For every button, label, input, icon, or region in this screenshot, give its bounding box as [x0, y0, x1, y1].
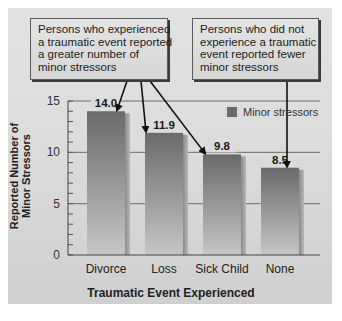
bars-group: 14.011.99.88.5 [87, 97, 304, 255]
legend: Minor stressors [227, 106, 318, 118]
bar-sick-child [203, 154, 241, 255]
value-label: 9.8 [214, 140, 231, 152]
x-axis-labels: DivorceLossSick ChildNone [86, 262, 295, 276]
callout-line: minor stressors [200, 61, 312, 74]
arrow-icon [141, 81, 146, 132]
callout-line: a greater number of [38, 48, 161, 61]
callout-line: Persons who experienced [38, 23, 161, 36]
legend-swatch-icon [227, 107, 237, 117]
callout-line: a traumatic event reported [38, 36, 161, 49]
value-label: 14.0 [95, 97, 117, 109]
x-tick-label: Divorce [86, 262, 127, 276]
bar-divorce [87, 111, 125, 255]
y-tick-label: 0 [53, 248, 60, 262]
bar-shadow [241, 156, 246, 255]
bar-loss [145, 133, 183, 255]
y-tick-label: 15 [47, 94, 61, 108]
callout-no-trauma: Persons who did not experience a traumat… [192, 18, 319, 80]
y-tick-label: 10 [47, 145, 61, 159]
x-tick-label: None [266, 262, 295, 276]
arrow-icon [117, 81, 127, 110]
callout-traumatic: Persons who experienced a traumatic even… [30, 18, 168, 80]
legend-label: Minor stressors [243, 106, 318, 118]
callout-line: experience a traumatic [200, 36, 312, 49]
value-label: 11.9 [153, 119, 175, 131]
y-tick-label: 5 [53, 197, 60, 211]
value-label: 8.5 [272, 154, 289, 166]
x-tick-label: Sick Child [195, 262, 248, 276]
bar-shadow [125, 113, 130, 255]
y-axis-title: Reported Number of Minor Stressors [8, 116, 36, 236]
callout-line: minor stressors [38, 61, 161, 74]
bar-shadow [299, 170, 304, 255]
bar-shadow [183, 135, 188, 255]
y-axis-title-line1: Reported Number of [8, 116, 20, 236]
callout-arrows [117, 81, 287, 167]
x-axis-title: Traumatic Event Experienced [0, 286, 342, 300]
y-axis-title-line2: Minor Stressors [20, 116, 32, 236]
callout-line: Persons who did not [200, 23, 312, 36]
bar-none [261, 168, 299, 255]
callout-line: event reported fewer [200, 48, 312, 61]
x-tick-label: Loss [151, 262, 176, 276]
